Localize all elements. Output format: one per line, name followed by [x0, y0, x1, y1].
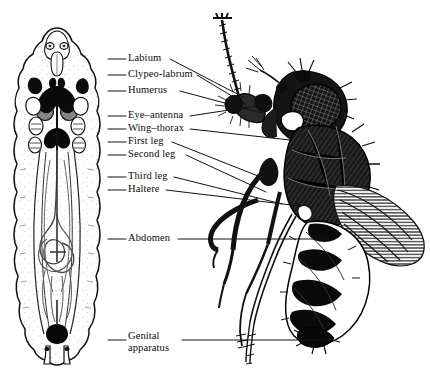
posterior-spiracle-dot-right [64, 347, 69, 351]
label-abdomen: Abdomen [128, 232, 170, 244]
fly-antennal-segment [276, 83, 288, 93]
label-eye-antenna: Eye–antenna [128, 109, 183, 121]
fly-haltere [298, 205, 312, 220]
label-first-leg: First leg [128, 135, 164, 147]
label-second-leg: Second leg [128, 148, 175, 160]
label-genital-apparatus: Genital apparatus [128, 330, 169, 353]
fly-second-leg [268, 192, 280, 244]
fly-first-leg-tarsus [219, 284, 224, 308]
larva-first-leg-disc-right [71, 117, 85, 135]
spiracle-dot-left [49, 45, 52, 47]
anatomy-artwork [0, 0, 430, 381]
fly-ocellar-triangle [295, 70, 311, 82]
spiracle-dot-right [63, 45, 66, 47]
label-labium: Labium [128, 52, 161, 64]
label-haltere: Haltere [128, 183, 160, 195]
label-humerus: Humerus [128, 84, 167, 96]
fly-third-leg-tarsus [246, 322, 254, 364]
larva-wing-disc-left [26, 97, 41, 115]
fly-arista [246, 56, 264, 72]
larva-genital-disc [46, 324, 68, 344]
fly-first-leg-coxa [259, 158, 278, 186]
larva-wing-disc-right [73, 97, 88, 115]
fly-third-leg-tibia [250, 260, 270, 322]
leader-right-first-leg [172, 142, 258, 176]
fly-first-leg-tibia [224, 250, 233, 284]
larva-first-leg-disc-left [29, 117, 43, 135]
fly-tarsal-claw [213, 13, 232, 18]
adult-fly-illustration [211, 13, 425, 364]
fly-second-leg-tarsus [240, 294, 246, 346]
label-third-leg: Third leg [128, 170, 168, 182]
label-clypeo-labrum: Clypeo-labrum [128, 68, 193, 80]
anatomy-figure: LabiumClypeo-labrumHumerusEye–antennaWin… [0, 0, 430, 381]
posterior-spiracle-dot-left [44, 347, 49, 351]
leader-right-second-leg [186, 155, 266, 192]
fly-midleg-extended-tarsus [213, 250, 218, 268]
larva-illustration [14, 28, 100, 365]
label-wing-thorax: Wing–thorax [128, 122, 184, 134]
